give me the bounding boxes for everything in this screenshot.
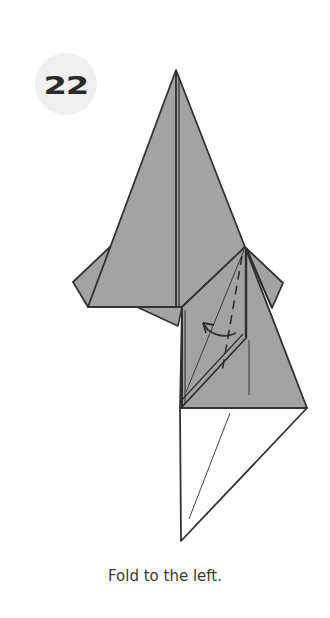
white-bottom-point — [180, 408, 307, 541]
back-skirt — [137, 307, 182, 326]
step-instruction: Fold to the left. — [0, 567, 330, 585]
origami-diagram — [0, 0, 330, 618]
